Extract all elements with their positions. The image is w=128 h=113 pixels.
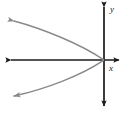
x-axis-label: x <box>109 64 113 73</box>
graph-canvas <box>0 0 128 113</box>
parabola-curve <box>14 21 104 96</box>
parabola-graph-figure: y x <box>0 0 128 113</box>
parabola-curve-group <box>14 21 104 96</box>
y-axis-label: y <box>110 5 114 14</box>
axes-group <box>11 7 119 106</box>
